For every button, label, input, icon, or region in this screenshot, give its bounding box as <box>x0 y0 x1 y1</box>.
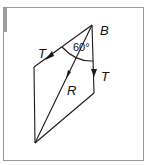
label-b: B <box>100 23 109 38</box>
side-left-lower <box>34 67 35 143</box>
label-tension-left: T <box>38 46 47 61</box>
label-tension-right: T <box>101 69 110 84</box>
arrow-right-tension-icon <box>91 69 97 77</box>
side-right-lower <box>35 93 94 143</box>
side-right-tension <box>92 25 94 93</box>
label-resultant: R <box>67 83 76 98</box>
arrow-resultant-icon <box>66 70 71 79</box>
arrow-left-tension-icon <box>45 51 54 60</box>
force-parallelogram-diagram: B T T R 60° <box>0 0 149 165</box>
label-angle: 60° <box>73 41 90 53</box>
